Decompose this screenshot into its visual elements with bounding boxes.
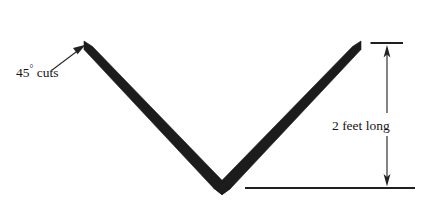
figure-canvas: 45° cuts 2 feet long — [0, 0, 428, 209]
cuts-label-suffix: cuts — [33, 65, 58, 80]
cuts-label: 45° cuts — [16, 64, 58, 80]
cuts-label-value: 45 — [16, 65, 30, 80]
v-board-diagram: 45° cuts 2 feet long — [0, 0, 428, 209]
length-label: 2 feet long — [332, 118, 390, 133]
